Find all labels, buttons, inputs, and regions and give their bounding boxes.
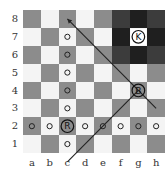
attack-line-g4-c8 xyxy=(67,19,138,91)
marker-circle-icon-f2 xyxy=(118,124,123,129)
rook-piece: R xyxy=(61,120,74,133)
marker-circle-icon-c1 xyxy=(65,141,70,146)
bishop-label: B xyxy=(135,86,141,96)
marker-circle-icon-c4 xyxy=(65,88,70,93)
marker-circle-icon-a2 xyxy=(29,124,34,129)
file-label-d: d xyxy=(76,157,94,168)
marker-circle-icon-g2 xyxy=(136,124,141,129)
rank-label-6: 6 xyxy=(10,49,20,60)
king-piece: K xyxy=(131,29,147,45)
rook-label: R xyxy=(64,121,70,131)
marker-circle-icon-c5 xyxy=(65,70,70,75)
marker-circle-icon-b2 xyxy=(47,124,52,129)
marker-circle-icon-h2 xyxy=(154,124,159,129)
rank-label-4: 4 xyxy=(10,85,20,96)
file-label-c: c xyxy=(59,157,77,168)
marker-circle-icon-c3 xyxy=(65,106,70,111)
rank-label-1: 1 xyxy=(10,138,20,149)
rank-label-2: 2 xyxy=(10,120,20,131)
marker-circle-icon-c7 xyxy=(65,34,70,39)
file-label-f: f xyxy=(112,157,130,168)
board-overlay: KBR xyxy=(23,10,165,153)
rank-label-3: 3 xyxy=(10,102,20,113)
bishop-piece: B xyxy=(132,84,145,97)
file-label-a: a xyxy=(23,157,41,168)
marker-circle-icon-d2 xyxy=(83,124,88,129)
file-label-g: g xyxy=(130,157,148,168)
file-label-h: h xyxy=(147,157,165,168)
rank-label-7: 7 xyxy=(10,31,20,42)
marker-circle-icon-c6 xyxy=(65,52,70,57)
file-label-b: b xyxy=(41,157,59,168)
attack-line-g4-c0 xyxy=(67,90,138,162)
rank-label-5: 5 xyxy=(10,67,20,78)
rank-label-8: 8 xyxy=(10,13,20,24)
file-label-e: e xyxy=(94,157,112,168)
